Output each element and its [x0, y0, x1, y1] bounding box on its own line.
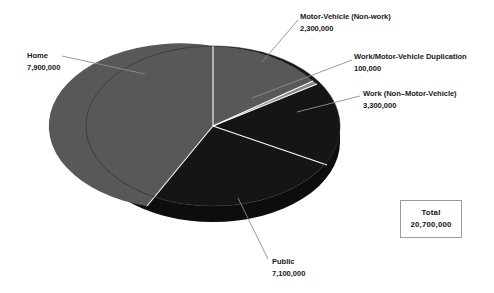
leader-line-motor-vehicle-nonwork [262, 20, 298, 62]
label-public: Public 7,100,000 [272, 256, 305, 279]
label-motor-vehicle-nonwork-name: Motor-Vehicle (Non-work) [300, 11, 391, 23]
pie-chart-svg [0, 0, 494, 293]
label-home: Home 7,900,000 [27, 50, 60, 73]
pie-top-face [49, 43, 340, 206]
total-box-title: Total [421, 207, 440, 219]
total-box-value: 20,700,000 [410, 219, 451, 231]
label-work-non-motor-vehicle-value: 3,300,000 [363, 100, 457, 112]
total-box: Total 20,700,000 [400, 200, 462, 238]
label-home-value: 7,900,000 [27, 62, 60, 74]
label-home-name: Home [27, 50, 60, 62]
label-motor-vehicle-nonwork-value: 2,300,000 [300, 23, 391, 35]
label-motor-vehicle-nonwork: Motor-Vehicle (Non-work) 2,300,000 [300, 11, 391, 34]
pie-chart-figure: Home 7,900,000 Motor-Vehicle (Non-work) … [0, 0, 494, 293]
label-duplication-name: Work/Motor-Vehicle Duplication [354, 51, 467, 63]
label-work-non-motor-vehicle: Work (Non–Motor-Vehicle) 3,300,000 [363, 88, 457, 111]
label-duplication: Work/Motor-Vehicle Duplication 100,000 [354, 51, 467, 74]
label-public-value: 7,100,000 [272, 268, 305, 280]
label-work-non-motor-vehicle-name: Work (Non–Motor-Vehicle) [363, 88, 457, 100]
label-duplication-value: 100,000 [354, 63, 467, 75]
label-public-name: Public [272, 256, 305, 268]
